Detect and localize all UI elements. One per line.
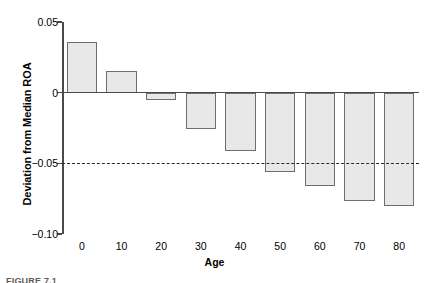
bar <box>146 93 176 100</box>
x-tick-label: 80 <box>393 240 405 252</box>
bar <box>225 93 255 151</box>
x-tick-label: 60 <box>314 240 326 252</box>
x-tick-label: 40 <box>235 240 247 252</box>
y-tick-label: 0.05 <box>38 16 58 28</box>
y-axis-line <box>62 22 64 234</box>
y-tick-label: −0.05 <box>31 157 58 169</box>
reference-dashed-line <box>62 163 419 164</box>
bar <box>186 93 216 130</box>
x-axis-title: Age <box>0 256 429 268</box>
bar <box>344 93 374 202</box>
x-tick-label: 10 <box>116 240 128 252</box>
figure-caption: FIGURE 7.1 <box>6 276 57 283</box>
bar <box>106 71 136 92</box>
bar <box>384 93 414 206</box>
x-tick-label: 70 <box>354 240 366 252</box>
x-tick-label: 50 <box>274 240 286 252</box>
y-tick-label: −0.10 <box>31 228 58 240</box>
x-tick-label: 30 <box>195 240 207 252</box>
y-tick-label: 0 <box>52 87 58 99</box>
y-axis-title: Deviation from Median ROA <box>21 39 33 229</box>
zero-baseline <box>62 92 419 94</box>
bar <box>265 93 295 172</box>
figure-container: Deviation from Median ROA 0.050−0.05−0.1… <box>0 0 429 283</box>
bar <box>67 42 97 93</box>
x-tick-label: 0 <box>79 240 85 252</box>
x-tick-label: 20 <box>155 240 167 252</box>
bar <box>305 93 335 186</box>
